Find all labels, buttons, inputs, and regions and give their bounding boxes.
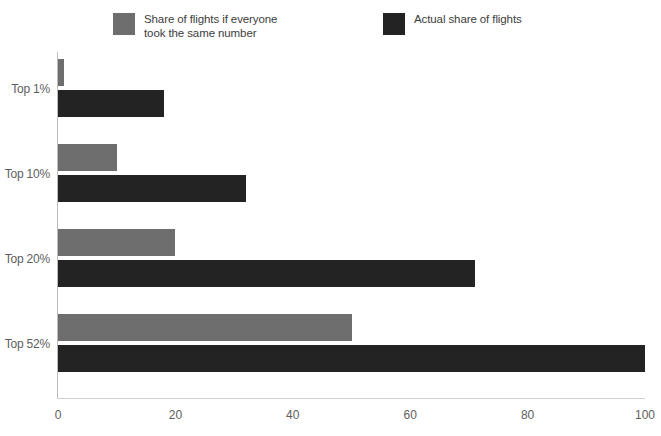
bar-group: Top 1% bbox=[0, 59, 661, 117]
bar-actual-share[interactable] bbox=[58, 175, 246, 202]
bar-equal-share[interactable] bbox=[58, 59, 64, 86]
category-label: Top 52% bbox=[0, 337, 50, 351]
bar-group: Top 20% bbox=[0, 229, 661, 287]
x-tick-label: 100 bbox=[635, 408, 655, 422]
bar-equal-share[interactable] bbox=[58, 314, 352, 341]
bar-actual-share[interactable] bbox=[58, 260, 475, 287]
plot-area: Top 1% Top 10% Top 20% Top 52% 0 20 40 6… bbox=[0, 0, 661, 436]
bar-actual-share[interactable] bbox=[58, 345, 645, 372]
x-axis-line bbox=[57, 398, 645, 399]
bar-group: Top 52% bbox=[0, 314, 661, 372]
x-tick-label: 60 bbox=[404, 408, 417, 422]
x-tick-label: 0 bbox=[55, 408, 62, 422]
bar-equal-share[interactable] bbox=[58, 144, 117, 171]
category-label: Top 1% bbox=[0, 82, 50, 96]
bar-group: Top 10% bbox=[0, 144, 661, 202]
category-label: Top 10% bbox=[0, 167, 50, 181]
x-tick-label: 80 bbox=[521, 408, 534, 422]
bar-actual-share[interactable] bbox=[58, 90, 164, 117]
chart-container: Share of flights if everyone took the sa… bbox=[0, 0, 661, 436]
bar-equal-share[interactable] bbox=[58, 229, 175, 256]
category-label: Top 20% bbox=[0, 252, 50, 266]
x-tick-label: 20 bbox=[169, 408, 182, 422]
x-tick-label: 40 bbox=[286, 408, 299, 422]
